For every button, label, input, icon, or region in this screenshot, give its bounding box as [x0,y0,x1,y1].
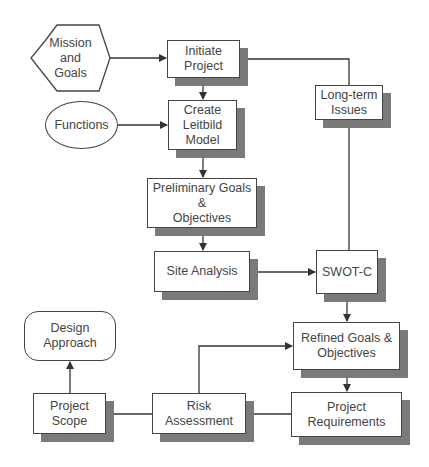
node-long-term-issues: Long-term Issues [315,85,383,120]
node-label: Design Approach [43,321,97,351]
node-label: Create Leitbild Model [183,103,223,148]
node-create-leitbild-model: Create Leitbild Model [168,100,237,150]
node-label: Initiate Project [184,44,223,74]
edge-longterm-initiate [241,59,349,85]
node-site-analysis: Site Analysis [154,251,250,292]
node-label: Site Analysis [167,264,238,279]
node-project-requirements: Project Requirements [291,392,402,437]
node-label: SWOT-C [322,265,372,280]
node-mission-and-goals: Mission and Goals [31,25,110,91]
node-label: Functions [54,118,108,133]
node-label: Project Requirements [308,400,386,430]
node-label: Long-term Issues [321,88,378,118]
node-label: Refined Goals & Objectives [301,331,392,361]
node-label: Project Scope [50,399,89,429]
node-refined-goals: Refined Goals & Objectives [293,322,400,370]
node-functions: Functions [45,101,118,149]
node-initiate-project: Initiate Project [167,40,240,78]
edge-risk-refined [199,346,292,393]
node-swot-c: SWOT-C [316,250,378,294]
node-label: Risk Assessment [165,399,233,429]
node-design-approach: Design Approach [24,311,116,361]
node-label: Preliminary Goals & Objectives [153,181,252,226]
node-label: Mission and Goals [49,36,91,81]
node-risk-assessment: Risk Assessment [152,393,246,434]
node-project-scope: Project Scope [33,393,106,434]
node-preliminary-goals: Preliminary Goals & Objectives [147,178,257,228]
